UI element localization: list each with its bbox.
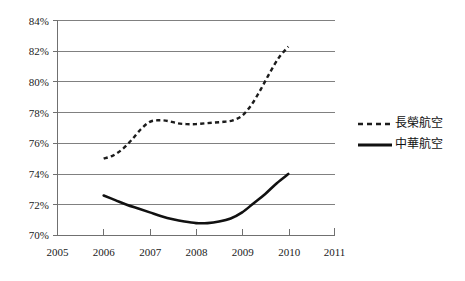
y-tick-marks xyxy=(53,21,57,236)
y-tick-label-80: 80% xyxy=(29,76,49,88)
y-tick-label-70: 70% xyxy=(29,229,49,241)
x-tick-label-2010: 2010 xyxy=(278,246,301,258)
y-tick-labels: 84% 82% 80% 78% 76% 74% 72% 70% xyxy=(29,15,49,242)
chart-container: 84% 82% 80% 78% 76% 74% 72% 70% 2005 200… xyxy=(0,0,465,281)
x-tick-label-2008: 2008 xyxy=(186,246,209,258)
series-line-eva-air xyxy=(104,47,289,159)
legend: 長榮航空 中華航空 xyxy=(358,115,443,151)
x-tick-label-2005: 2005 xyxy=(47,246,70,258)
series-line-china-airlines xyxy=(104,174,289,223)
x-tick-marks xyxy=(58,229,335,235)
y-tick-label-74: 74% xyxy=(29,168,49,180)
x-tick-label-2007: 2007 xyxy=(139,246,162,258)
line-chart: 84% 82% 80% 78% 76% 74% 72% 70% 2005 200… xyxy=(0,0,465,281)
x-tick-label-2006: 2006 xyxy=(93,246,116,258)
gridlines xyxy=(57,21,335,205)
legend-label-china-airlines: 中華航空 xyxy=(395,136,443,151)
y-tick-label-82: 82% xyxy=(29,45,49,57)
y-tick-label-72: 72% xyxy=(29,199,49,211)
legend-label-eva-air: 長榮航空 xyxy=(395,115,443,130)
x-tick-labels: 2005 2006 2007 2008 2009 2010 2011 xyxy=(47,246,346,258)
y-tick-label-84: 84% xyxy=(29,15,49,27)
x-tick-label-2009: 2009 xyxy=(232,246,255,258)
y-tick-label-76: 76% xyxy=(29,137,49,149)
x-tick-label-2011: 2011 xyxy=(324,246,346,258)
y-tick-label-78: 78% xyxy=(29,107,49,119)
